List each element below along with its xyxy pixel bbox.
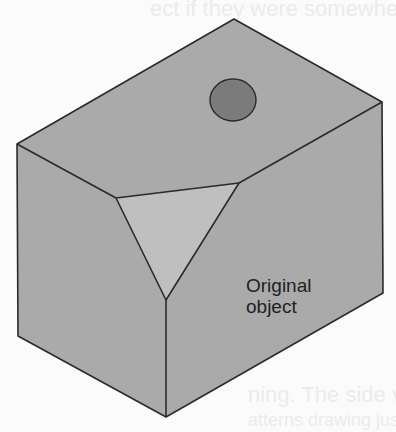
label-line-2: object <box>246 296 311 317</box>
original-object-label: Original object <box>246 275 311 317</box>
isometric-object-diagram <box>0 0 396 432</box>
circular-hole <box>210 79 256 121</box>
label-line-1: Original <box>246 275 311 296</box>
